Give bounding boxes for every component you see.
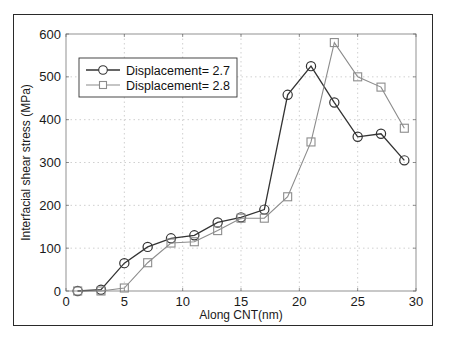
y-tick-label: 600 [39, 27, 61, 42]
x-tick-label: 30 [409, 294, 423, 309]
y-tick-label: 100 [39, 241, 61, 256]
y-axis-label: Interfacial shear stress (MPa) [19, 84, 33, 241]
circle-marker-icon [99, 66, 108, 75]
x-tick-label: 25 [350, 294, 364, 309]
y-tick-label: 500 [39, 69, 61, 84]
x-axis-label: Along CNT(nm) [199, 308, 282, 322]
x-tick-label: 0 [62, 294, 69, 309]
y-tick-label: 400 [39, 112, 61, 127]
x-tick-label: 20 [292, 294, 306, 309]
x-tick-label: 5 [121, 294, 128, 309]
legend: Displacement= 2.7 Displacement= 2.8 [79, 58, 237, 97]
x-tick-label: 10 [175, 294, 189, 309]
legend-label: Displacement= 2.8 [126, 79, 230, 93]
legend-label: Displacement= 2.7 [126, 64, 230, 78]
y-tick-label: 200 [39, 198, 61, 213]
y-tick-label: 0 [54, 284, 61, 299]
line-chart: 0510152025300100200300400500600 Along CN… [0, 0, 450, 343]
square-marker-icon [100, 82, 107, 89]
y-tick-label: 300 [39, 155, 61, 170]
x-tick-label: 15 [234, 294, 248, 309]
